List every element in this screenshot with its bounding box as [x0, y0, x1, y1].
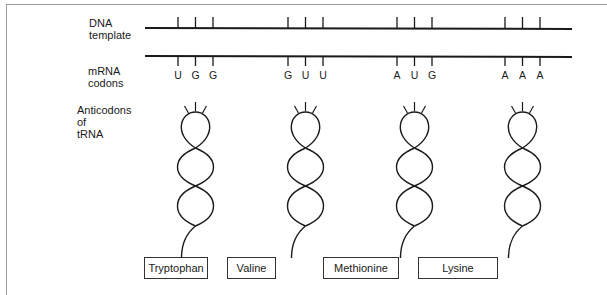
- trna-head-loop: [508, 112, 536, 148]
- codon-base: G: [281, 69, 295, 81]
- anticodon-spoke: [203, 106, 207, 113]
- trna-helix-strand: [178, 148, 214, 226]
- dna-strand: [145, 28, 572, 29]
- mrna-strand: [145, 56, 572, 57]
- amino-acid-label: Methionine: [334, 262, 388, 274]
- anticodon-spoke: [422, 106, 426, 113]
- trna-helix-strand: [288, 148, 324, 226]
- amino-acid-box: Tryptophan: [144, 257, 208, 279]
- amino-acid-label: Valine: [237, 262, 267, 274]
- trna-tail: [401, 226, 415, 258]
- anticodon-spoke: [313, 106, 317, 113]
- anticodon-spoke: [530, 106, 534, 113]
- trna-helix-strand: [288, 148, 324, 226]
- codon-base: U: [299, 69, 313, 81]
- trna-head-loop: [181, 112, 209, 148]
- amino-acid-box: Lysine: [418, 257, 498, 279]
- trna-helix-strand: [397, 148, 433, 226]
- codon-base: A: [516, 69, 530, 81]
- anticodon-spoke: [185, 106, 189, 113]
- trna-tail: [509, 226, 523, 258]
- trna-helix-strand: [397, 148, 433, 226]
- codon-base: G: [425, 69, 439, 81]
- trna-tail: [292, 226, 306, 258]
- codon-base: A: [390, 69, 404, 81]
- codon-base: U: [408, 69, 422, 81]
- codon-base: U: [171, 69, 185, 81]
- amino-acid-box: Methionine: [323, 257, 399, 279]
- amino-acid-box: Valine: [227, 257, 276, 279]
- codon-base: U: [316, 69, 330, 81]
- amino-acid-label: Lysine: [442, 262, 473, 274]
- trna-head-loop: [291, 112, 319, 148]
- trna-tail: [182, 226, 196, 258]
- trna-helix-strand: [178, 148, 214, 226]
- anticodon-spoke: [404, 106, 408, 113]
- anticodon-spoke: [512, 106, 516, 113]
- codon-base: A: [533, 69, 547, 81]
- codon-base: A: [498, 69, 512, 81]
- trna-helix-strand: [505, 148, 541, 226]
- trna-head-loop: [400, 112, 428, 148]
- anticodon-spoke: [295, 106, 299, 113]
- trna-helix-strand: [505, 148, 541, 226]
- codon-base: G: [206, 69, 220, 81]
- codon-base: G: [189, 69, 203, 81]
- amino-acid-label: Tryptophan: [148, 262, 203, 274]
